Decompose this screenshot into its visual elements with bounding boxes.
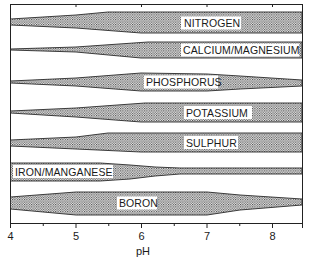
x-axis-title: pH bbox=[136, 245, 150, 257]
band-potassium: POTASSIUM bbox=[11, 103, 303, 122]
label-iron-manganese: IRON/MANGANESE bbox=[15, 166, 113, 178]
label-nitrogen: NITROGEN bbox=[184, 17, 240, 29]
label-calcium-magnesium: CALCIUM/MAGNESIUM bbox=[183, 44, 300, 56]
tick-label-8: 8 bbox=[269, 230, 275, 242]
x-tick-labels: 4 5 6 7 8 bbox=[7, 230, 275, 242]
band-calcium-magnesium: CALCIUM/MAGNESIUM bbox=[11, 42, 303, 58]
tick-label-4: 4 bbox=[7, 230, 13, 242]
label-sulphur: SULPHUR bbox=[186, 137, 237, 149]
band-boron: BORON bbox=[11, 192, 303, 215]
band-nitrogen: NITROGEN bbox=[11, 12, 303, 33]
label-potassium: POTASSIUM bbox=[186, 107, 248, 119]
tick-label-5: 5 bbox=[73, 230, 79, 242]
label-phosphorus: PHOSPHORUS bbox=[146, 76, 222, 88]
band-phosphorus: PHOSPHORUS bbox=[11, 73, 303, 91]
band-iron-manganese: IRON/MANGANESE bbox=[11, 163, 303, 181]
tick-label-6: 6 bbox=[138, 230, 144, 242]
nutrient-availability-chart: NITROGEN CALCIUM/MAGNESIUM PHOSPHORUS PO… bbox=[0, 0, 309, 259]
label-boron: BORON bbox=[119, 197, 158, 209]
band-sulphur: SULPHUR bbox=[11, 133, 303, 152]
tick-label-7: 7 bbox=[204, 230, 210, 242]
